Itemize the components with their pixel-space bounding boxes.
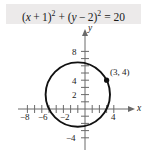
y-tick-label-neg4: −4: [66, 134, 76, 143]
point-annotation-3-4: (3, 4): [110, 68, 130, 77]
x-axis-arrowhead: [128, 106, 135, 112]
x-tick-label-pos4: 4: [111, 113, 116, 122]
figure-panel: (x + 1)2 + (y − 2)2 = 20: [0, 0, 147, 159]
x-tick-label-neg2: −2: [60, 113, 70, 122]
y-tick-label-pos4: 4: [72, 77, 77, 86]
x-tick-label-neg6: −6: [38, 113, 48, 122]
y-tick-label-pos2: 2: [72, 91, 77, 100]
circle-equation: (x + 1)2 + (y − 2)2 = 20: [6, 4, 141, 24]
coordinate-plot: −8 −6 −2 4 8 4 2 −4 x y (3, 4): [0, 24, 147, 159]
equation-banner: (x + 1)2 + (y − 2)2 = 20: [6, 4, 141, 24]
y-axis-label: y: [88, 24, 92, 34]
y-tick-label-pos8: 8: [72, 48, 77, 57]
x-axis-label: x: [137, 104, 141, 114]
circle-curve: [46, 62, 110, 126]
x-tick-label-neg8: −8: [20, 113, 30, 122]
point-marker-3-4: [104, 78, 109, 83]
